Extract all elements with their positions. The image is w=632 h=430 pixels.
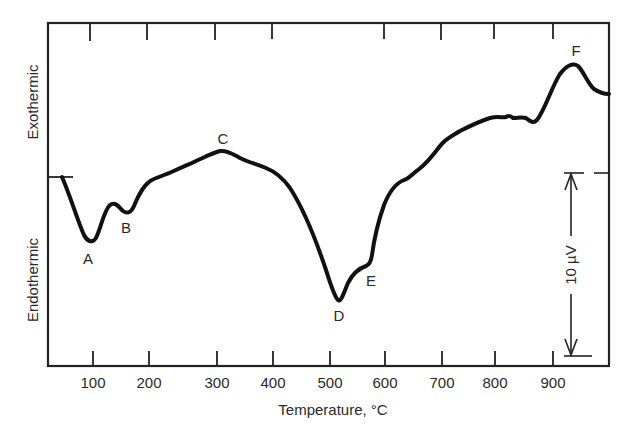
peak-label-d: D <box>334 307 345 324</box>
x-tick-label-800: 800 <box>482 374 507 391</box>
x-tick-label-900: 900 <box>540 374 565 391</box>
x-axis-title: Temperature, °C <box>278 401 388 418</box>
peak-label-e: E <box>366 272 376 289</box>
x-tick-label-700: 700 <box>429 374 454 391</box>
y-label-exothermic: Exothermic <box>24 64 41 140</box>
x-tick-label-400: 400 <box>260 374 285 391</box>
bottom-ticks <box>93 351 553 366</box>
y-label-endothermic: Endothermic <box>24 237 41 322</box>
peak-label-a: A <box>83 250 93 267</box>
x-tick-label-200: 200 <box>136 374 161 391</box>
x-tick-label-100: 100 <box>80 374 105 391</box>
scale-bar: 10 µV <box>562 173 609 356</box>
x-tick-label-600: 600 <box>372 374 397 391</box>
x-tick-label-300: 300 <box>204 374 229 391</box>
top-ticks <box>90 23 553 41</box>
x-tick-label-500: 500 <box>317 374 342 391</box>
peak-label-f: F <box>571 42 580 59</box>
dta-chart: 100 200 300 400 500 600 700 800 900 Temp… <box>0 0 632 430</box>
dta-curve <box>62 64 609 300</box>
x-tick-labels: 100 200 300 400 500 600 700 800 900 <box>80 374 565 391</box>
peak-label-b: B <box>121 219 131 236</box>
peak-label-c: C <box>218 130 229 147</box>
plot-frame <box>48 23 609 366</box>
scale-bar-label: 10 µV <box>562 245 579 285</box>
